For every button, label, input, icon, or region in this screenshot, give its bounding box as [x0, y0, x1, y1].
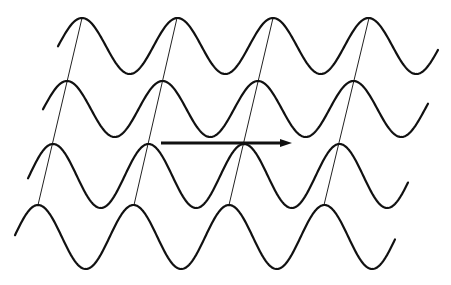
wave-2 — [43, 81, 428, 137]
wave-diagram — [0, 0, 451, 285]
phase-line — [134, 18, 177, 205]
phase-lines — [38, 18, 369, 205]
phase-line — [229, 18, 273, 205]
wave-1 — [58, 18, 438, 74]
wave-4 — [15, 205, 395, 269]
phase-line — [38, 18, 82, 205]
wave-3 — [28, 144, 408, 208]
arrow-head-icon — [280, 139, 292, 147]
propagation-arrow — [161, 139, 292, 147]
phase-line — [324, 18, 369, 205]
